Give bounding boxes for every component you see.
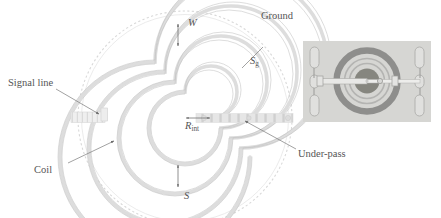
signal-line-pad <box>71 108 108 123</box>
label-inner-radius-rint: Rint <box>185 121 199 133</box>
spiral-inductor-diagram <box>0 0 441 218</box>
label-rint-subscript: int <box>191 125 199 133</box>
micrograph-inset <box>303 41 431 122</box>
label-spacing-s: S <box>184 191 189 202</box>
label-signal-line: Signal line <box>8 78 53 89</box>
figure-container: Signal line Coil Ground Under-pass W Sg … <box>0 0 441 218</box>
label-ground: Ground <box>261 11 293 22</box>
spiral-coil <box>58 0 331 218</box>
leader-line-signal <box>56 89 99 114</box>
label-width-w: W <box>188 18 197 29</box>
label-coil: Coil <box>34 165 52 176</box>
label-under-pass: Under-pass <box>298 149 346 160</box>
label-sg-subscript: g <box>255 60 259 68</box>
label-ground-spacing-sg: Sg <box>250 56 259 68</box>
under-pass-trace <box>196 114 293 123</box>
